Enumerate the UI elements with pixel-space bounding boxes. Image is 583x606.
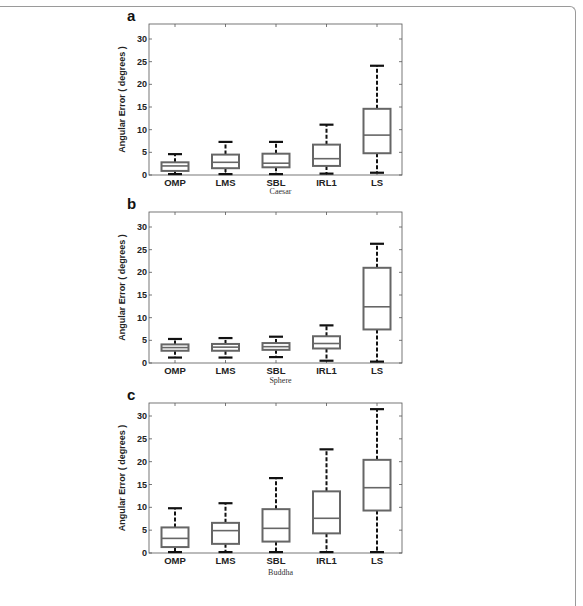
panel-c: c051015202530Angular Error ( degrees )OM… [117,386,402,577]
y-tick-label: 10 [137,313,147,323]
x-category-label: OMP [164,177,186,188]
x-category-label: OMP [164,555,186,566]
iqr-box [263,154,290,168]
panel-letter: b [127,195,136,212]
iqr-box [263,509,290,541]
y-axis-label: Angular Error ( degrees ) [117,425,127,532]
x-category-label: IRL1 [316,177,337,188]
iqr-box [313,336,340,348]
y-axis-label: Angular Error ( degrees ) [117,234,127,341]
box-lms: LMS [212,24,239,188]
box-ls: LS [364,403,391,566]
y-tick-label: 15 [137,102,147,112]
y-tick-label: 5 [142,525,147,535]
x-category-label: SBL [267,365,286,376]
panel-caption: Caesar [270,187,292,196]
box-sbl: SBL [263,212,290,376]
box-sbl: SBL [263,24,290,188]
y-tick-label: 15 [137,480,147,490]
panel-letter: c [127,386,135,403]
y-tick-label: 0 [142,358,147,368]
y-tick-label: 15 [137,290,147,300]
y-tick-label: 10 [137,502,147,512]
y-tick-label: 30 [137,411,147,421]
x-category-label: LMS [215,555,235,566]
y-tick-label: 25 [137,245,147,255]
iqr-box [313,491,340,533]
iqr-box [364,268,391,330]
x-category-label: LMS [215,365,235,376]
panel-b: b051015202530Angular Error ( degrees )OM… [117,195,402,385]
y-tick-label: 25 [137,57,147,67]
panel-caption: Buddha [268,568,293,577]
iqr-box [212,523,239,544]
box-omp: OMP [162,403,189,566]
y-tick-label: 5 [142,335,147,345]
x-category-label: IRL1 [316,555,337,566]
y-tick-label: 20 [137,267,147,277]
x-category-label: OMP [164,365,186,376]
y-tick-label: 30 [137,34,147,44]
y-tick-label: 5 [142,147,147,157]
x-category-label: LS [371,365,383,376]
x-category-label: IRL1 [316,365,337,376]
x-category-label: LS [371,177,383,188]
x-category-label: SBL [267,555,286,566]
y-tick-label: 20 [137,79,147,89]
y-tick-label: 25 [137,434,147,444]
box-irl1: IRL1 [313,403,340,566]
y-tick-label: 10 [137,125,147,135]
y-tick-label: 0 [142,548,147,558]
iqr-box [313,145,340,166]
box-irl1: IRL1 [313,24,340,188]
iqr-box [364,460,391,511]
iqr-box [364,109,391,153]
box-ls: LS [364,212,391,376]
y-axis-label: Angular Error ( degrees ) [117,46,127,153]
y-tick-label: 20 [137,457,147,467]
x-category-label: LMS [215,177,235,188]
box-irl1: IRL1 [313,212,340,376]
panel-caption: Sphere [269,376,292,385]
box-lms: LMS [212,212,239,376]
panel-a: a051015202530Angular Error ( degrees )OM… [117,7,402,196]
box-omp: OMP [162,24,189,188]
panel-letter: a [127,7,136,24]
box-lms: LMS [212,403,239,566]
box-ls: LS [364,24,391,188]
box-sbl: SBL [263,403,290,566]
iqr-box [212,155,239,169]
iqr-box [162,527,189,547]
y-tick-label: 30 [137,222,147,232]
x-category-label: LS [371,555,383,566]
box-omp: OMP [162,212,189,376]
y-tick-label: 0 [142,170,147,180]
